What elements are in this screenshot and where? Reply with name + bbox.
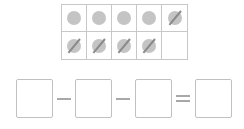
frame-cell: [87, 32, 112, 59]
frame-cell: [112, 32, 137, 59]
equals-sign-top: [176, 95, 190, 97]
ten-frame: [61, 4, 188, 60]
minus-sign-1: [57, 98, 71, 100]
counter-dot-icon: [142, 11, 156, 25]
frame-cell: [162, 32, 187, 59]
answer-box-3[interactable]: [135, 79, 172, 118]
equals-sign-bottom: [176, 100, 190, 102]
answer-box-2[interactable]: [75, 79, 112, 118]
minus-sign-2: [116, 98, 130, 100]
answer-box-1[interactable]: [16, 79, 53, 118]
frame-cell: [62, 32, 87, 59]
counter-dot-icon: [117, 11, 131, 25]
frame-cell: [112, 5, 137, 32]
counter-dot-icon: [92, 11, 106, 25]
frame-cell: [137, 32, 162, 59]
counter-dot-icon: [67, 11, 81, 25]
frame-cell: [62, 5, 87, 32]
frame-cell: [137, 5, 162, 32]
frame-cell: [87, 5, 112, 32]
answer-box-4[interactable]: [195, 79, 232, 118]
frame-cell: [162, 5, 187, 32]
